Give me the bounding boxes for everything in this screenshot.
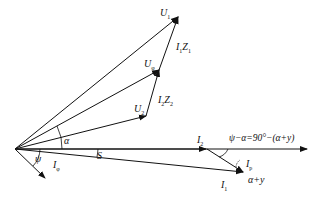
label-i2: I2 <box>197 135 203 147</box>
label-alpha: α <box>64 136 69 146</box>
label-i2z2: I2Z2 <box>158 95 173 107</box>
label-iphi: Iφ <box>53 160 60 172</box>
label-u1: U1 <box>160 8 170 20</box>
label-s: S <box>97 151 102 161</box>
psi-minus-alpha-arc <box>219 149 228 157</box>
label-i1: I1 <box>221 180 227 192</box>
i2z2-phasor <box>146 70 159 116</box>
label-iphi-right: Ip <box>246 159 252 171</box>
label-equation: ψ−α=90°−(α+y) <box>229 134 294 144</box>
i1-phasor <box>15 149 243 172</box>
label-psi: ψ <box>35 154 41 164</box>
label-uphi: Uφ <box>144 59 155 71</box>
alpha-plus-y-arc <box>236 160 240 167</box>
label-i1z1: I1Z1 <box>176 42 191 54</box>
u1-phasor <box>15 17 178 149</box>
label-u2: U2 <box>134 104 144 116</box>
label-alpha-plus-y: α+y <box>248 175 264 185</box>
